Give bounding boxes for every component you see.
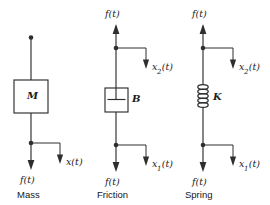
friction-bottom-force-label: f(t) bbox=[105, 177, 120, 187]
friction-bottom-force-arrowhead bbox=[113, 162, 120, 172]
friction-top-displacement-sub: 2 bbox=[157, 68, 161, 76]
friction-bottom-displacement-arrowhead bbox=[143, 157, 149, 167]
friction-top-displacement-branch bbox=[116, 48, 146, 63]
spring-bottom-displacement-arrowhead bbox=[230, 157, 236, 167]
mass-displacement-label: x(t) bbox=[66, 157, 83, 167]
mass-bottom-force-label: f(t) bbox=[20, 175, 35, 185]
spring-bottom-displacement-sub: 1 bbox=[244, 165, 248, 173]
mass-element-symbol: M bbox=[27, 91, 38, 101]
friction-top-displacement-arrowhead bbox=[143, 60, 149, 70]
spring-bottom-displacement-label: x1(t) bbox=[239, 159, 260, 172]
spring-top-displacement-sub: 2 bbox=[244, 68, 248, 76]
mass-panel-graphics bbox=[14, 35, 63, 170]
spring-top-displacement-branch bbox=[203, 48, 233, 63]
mass-displacement-arrowhead bbox=[57, 155, 63, 165]
friction-top-displacement-label: x2(t) bbox=[152, 62, 173, 75]
friction-bottom-displacement-tail: (t) bbox=[162, 158, 173, 169]
mass-bottom-force-arrowhead bbox=[28, 160, 35, 170]
spring-element-symbol: K bbox=[213, 92, 222, 102]
spring-top-displacement-label: x2(t) bbox=[239, 62, 260, 75]
mass-top-terminal-dot bbox=[29, 35, 34, 40]
friction-bottom-displacement-label: x1(t) bbox=[152, 159, 173, 172]
mass-displacement-tail: (t) bbox=[71, 156, 82, 167]
friction-top-force-label: f(t) bbox=[105, 9, 120, 19]
spring-caption: Spring bbox=[185, 190, 212, 200]
spring-bottom-force-arrowhead bbox=[200, 162, 207, 172]
mass-displacement-branch bbox=[31, 143, 60, 158]
spring-bottom-displacement-branch bbox=[203, 145, 233, 160]
spring-top-force-arrowhead bbox=[200, 24, 207, 34]
spring-bottom-displacement-tail: (t) bbox=[249, 158, 260, 169]
friction-top-displacement-tail: (t) bbox=[162, 61, 173, 72]
spring-top-force-label: f(t) bbox=[192, 9, 207, 19]
friction-bottom-displacement-sub: 1 bbox=[157, 165, 161, 173]
spring-top-displacement-arrowhead bbox=[230, 60, 236, 70]
mass-caption: Mass bbox=[17, 190, 40, 200]
friction-panel-graphics bbox=[105, 24, 149, 172]
spring-bottom-force-label: f(t) bbox=[192, 177, 207, 187]
friction-caption: Friction bbox=[97, 190, 128, 200]
friction-element-symbol: B bbox=[132, 94, 140, 104]
mechanical-elements-figure: M f(t) x(t) Mass f(t) B x2(t) x1(t) f(t)… bbox=[0, 0, 270, 205]
friction-bottom-displacement-branch bbox=[116, 145, 146, 160]
spring-top-displacement-tail: (t) bbox=[249, 61, 260, 72]
spring-coil bbox=[198, 85, 208, 108]
friction-top-force-arrowhead bbox=[113, 24, 120, 34]
